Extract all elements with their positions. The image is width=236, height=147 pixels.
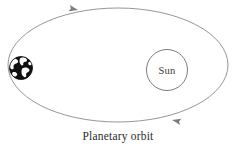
figure-background [0, 0, 236, 147]
sun-label: Sun [159, 65, 176, 76]
planetary-orbit-figure: Sun [0, 0, 236, 147]
figure-caption: Planetary orbit [0, 129, 236, 143]
earth-globe-icon [10, 57, 33, 80]
orbit-diagram-canvas: Sun [0, 0, 236, 147]
sun-body: Sun [147, 50, 188, 91]
